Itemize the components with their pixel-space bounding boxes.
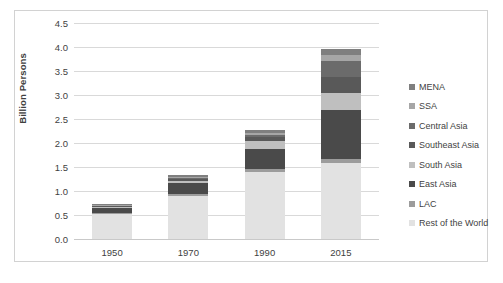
bar-2015[interactable] <box>321 23 361 239</box>
legend-item-ssa[interactable]: SSA <box>409 97 503 117</box>
legend-swatch-icon <box>409 123 415 129</box>
y-axis-tick-label: 0.5 <box>55 210 68 221</box>
bar-segment-ssa[interactable] <box>321 55 361 61</box>
y-axis-tick-label: 4.5 <box>55 18 68 29</box>
bar-segment-southeast-asia[interactable] <box>92 206 132 207</box>
bar-segment-central-asia[interactable] <box>92 205 132 206</box>
chart-frame: Billion Persons 0.00.51.01.52.02.53.03.5… <box>14 10 488 262</box>
bar-segment-south-asia[interactable] <box>168 181 208 183</box>
legend-item-south-asia[interactable]: South Asia <box>409 155 503 175</box>
chart-legend: MENASSACentral AsiaSoutheast AsiaSouth A… <box>409 77 503 233</box>
legend-item-label: Rest of the World <box>419 218 488 228</box>
y-axis-tick-label: 1.5 <box>55 162 68 173</box>
y-axis-tick-label: 4.0 <box>55 42 68 53</box>
legend-item-lac[interactable]: LAC <box>409 194 503 214</box>
bar-segment-rest-of-the-world[interactable] <box>92 214 132 239</box>
bar-segment-rest-of-the-world[interactable] <box>321 163 361 239</box>
bar-segment-rest-of-the-world[interactable] <box>245 172 285 239</box>
bar-segment-east-asia[interactable] <box>92 208 132 213</box>
legend-item-east-asia[interactable]: East Asia <box>409 175 503 195</box>
y-axis-title: Billion Persons <box>13 11 31 263</box>
legend-item-mena[interactable]: MENA <box>409 77 503 97</box>
bar-segment-lac[interactable] <box>245 169 285 172</box>
bar-segment-central-asia[interactable] <box>321 61 361 77</box>
bar-segment-lac[interactable] <box>321 159 361 163</box>
x-axis-tick-label: 1950 <box>102 247 123 258</box>
bar-segment-rest-of-the-world[interactable] <box>168 196 208 239</box>
bar-segment-south-asia[interactable] <box>92 207 132 208</box>
legend-item-label: South Asia <box>419 160 462 170</box>
bar-segment-lac[interactable] <box>168 194 208 196</box>
legend-item-central-asia[interactable]: Central Asia <box>409 116 503 136</box>
bar-segment-southeast-asia[interactable] <box>245 137 285 141</box>
legend-swatch-icon <box>409 201 415 207</box>
y-axis-tick-label: 3.0 <box>55 90 68 101</box>
legend-item-rest-of-the-world[interactable]: Rest of the World <box>409 214 503 234</box>
legend-item-label: Central Asia <box>419 121 468 131</box>
y-axis-tick-label: 2.0 <box>55 138 68 149</box>
plot-area: 0.00.51.01.52.02.53.03.54.04.5 195019701… <box>74 23 379 239</box>
y-axis-tick-label: 3.5 <box>55 66 68 77</box>
legend-item-label: Southeast Asia <box>419 140 479 150</box>
legend-item-label: SSA <box>419 101 437 111</box>
bar-segment-southeast-asia[interactable] <box>168 179 208 181</box>
legend-swatch-icon <box>409 84 415 90</box>
y-axis-tick-label: 2.5 <box>55 114 68 125</box>
legend-item-label: MENA <box>419 82 445 92</box>
bar-segment-east-asia[interactable] <box>168 183 208 195</box>
legend-item-southeast-asia[interactable]: Southeast Asia <box>409 136 503 156</box>
bar-segment-east-asia[interactable] <box>245 149 285 169</box>
y-axis-tick-label: 1.0 <box>55 186 68 197</box>
legend-swatch-icon <box>409 162 415 168</box>
legend-item-label: East Asia <box>419 179 457 189</box>
bar-segment-mena[interactable] <box>321 49 361 55</box>
legend-swatch-icon <box>409 181 415 187</box>
bar-segment-ssa[interactable] <box>168 177 208 178</box>
x-axis-tick-label: 1990 <box>254 247 275 258</box>
bar-segment-south-asia[interactable] <box>321 93 361 110</box>
bar-segment-mena[interactable] <box>245 130 285 133</box>
bar-segment-ssa[interactable] <box>245 133 285 135</box>
x-axis-tick-label: 2015 <box>330 247 351 258</box>
bar-segment-mena[interactable] <box>168 175 208 176</box>
x-axis-line <box>74 239 379 240</box>
y-axis-title-label: Billion Persons <box>17 53 28 124</box>
bar-segment-east-asia[interactable] <box>321 110 361 159</box>
bar-segment-central-asia[interactable] <box>168 178 208 179</box>
legend-swatch-icon <box>409 142 415 148</box>
bar-segment-mena[interactable] <box>92 204 132 205</box>
legend-swatch-icon <box>409 103 415 109</box>
bar-segment-lac[interactable] <box>92 213 132 214</box>
bar-segment-southeast-asia[interactable] <box>321 77 361 93</box>
legend-swatch-icon <box>409 220 415 226</box>
y-axis-tick-label: 0.0 <box>55 234 68 245</box>
bar-1950[interactable] <box>92 23 132 239</box>
x-axis-tick-label: 1970 <box>178 247 199 258</box>
bar-segment-south-asia[interactable] <box>245 141 285 149</box>
legend-item-label: LAC <box>419 199 437 209</box>
bar-segment-central-asia[interactable] <box>245 135 285 137</box>
bar-1970[interactable] <box>168 23 208 239</box>
bar-1990[interactable] <box>245 23 285 239</box>
